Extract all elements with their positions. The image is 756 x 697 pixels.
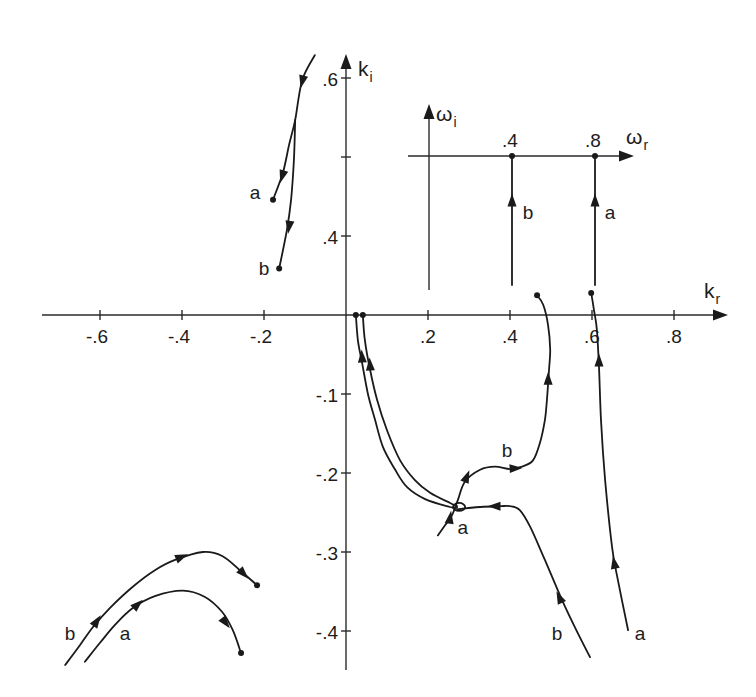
- curve-label-b: b: [259, 258, 270, 279]
- y-tick-label: .4: [322, 227, 338, 248]
- curve-label-b: b: [502, 440, 513, 461]
- y-axis-label-sub: i: [370, 69, 373, 85]
- inset-end-point: [509, 153, 515, 159]
- inset-curve-label-b: b: [523, 202, 534, 223]
- inset-x-tick-label: .8: [585, 130, 601, 151]
- inset-y-axis-label-base: ω: [436, 102, 452, 125]
- inset-x-axis-label-base: ω: [626, 125, 642, 148]
- inset-y-axis-label-sub: i: [453, 114, 456, 130]
- end-point: [588, 290, 594, 296]
- y-axis-label-base: k: [358, 57, 369, 80]
- x-tick-label: -.2: [250, 326, 272, 347]
- y-tick-label: -.1: [316, 385, 338, 406]
- figure: ki kr -.6-.4-.2.2.4.6.8.6.4-.1-.2-.3-.4 …: [0, 0, 756, 697]
- y-tick-label: -.4: [316, 622, 339, 643]
- background: [0, 0, 756, 697]
- y-tick-label: -.3: [316, 543, 338, 564]
- curve-label-a: a: [458, 517, 469, 538]
- x-tick-label: .4: [502, 326, 518, 347]
- inset-end-point: [592, 153, 598, 159]
- end-point: [254, 582, 260, 588]
- end-point: [534, 292, 540, 298]
- end-point: [353, 312, 359, 318]
- inset-curve-label-a: a: [605, 202, 616, 223]
- x-tick-label: -.6: [86, 326, 108, 347]
- inset-x-tick-label: .4: [502, 130, 518, 151]
- end-point: [276, 265, 282, 271]
- curve-label-a: a: [635, 623, 646, 644]
- y-tick-label: -.2: [316, 464, 338, 485]
- end-point: [270, 197, 276, 203]
- curve-label-a: a: [120, 623, 131, 644]
- end-point: [238, 650, 244, 656]
- x-tick-label: .2: [420, 326, 436, 347]
- end-point: [360, 312, 366, 318]
- curve-label-b: b: [552, 623, 563, 644]
- x-axis-label-sub: r: [716, 291, 721, 307]
- y-tick-label: .6: [322, 69, 338, 90]
- curve-label-a: a: [250, 182, 261, 203]
- inset-x-axis-label-sub: r: [643, 137, 648, 153]
- curve-label-b: b: [65, 623, 76, 644]
- x-tick-label: -.4: [168, 326, 191, 347]
- x-tick-label: .8: [666, 326, 682, 347]
- x-axis-label-base: k: [704, 279, 715, 302]
